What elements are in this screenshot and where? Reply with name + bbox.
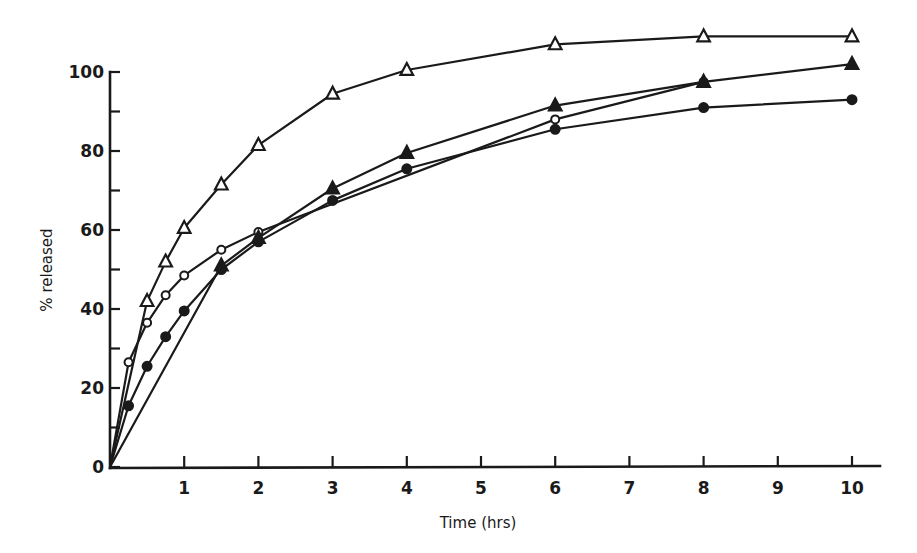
open-triangle-marker [141, 294, 154, 306]
y-tick-label: 40 [80, 299, 104, 319]
x-tick-label: 5 [475, 478, 487, 498]
open-triangle-marker [159, 255, 172, 267]
x-tick-label: 3 [327, 478, 339, 498]
x-axis [110, 466, 880, 468]
series-line [110, 100, 852, 467]
x-ticks: 12345678910 [178, 456, 864, 498]
filled-circle-marker [124, 401, 133, 410]
y-tick-label: 0 [92, 457, 104, 477]
open-triangle-marker [252, 138, 265, 150]
filled-circle-marker [217, 265, 226, 274]
filled-circle-marker [180, 306, 189, 315]
series-open-circle [110, 78, 708, 467]
open-circle-marker [125, 358, 133, 366]
filled-circle-marker [328, 196, 337, 205]
y-tick-label: 80 [80, 141, 104, 161]
series-line [110, 82, 704, 467]
x-tick-label: 2 [252, 478, 264, 498]
filled-circle-marker [161, 332, 170, 341]
x-tick-label: 8 [698, 478, 710, 498]
filled-circle-marker [551, 125, 560, 134]
x-tick-label: 4 [401, 478, 413, 498]
y-axis-title: % released [38, 228, 56, 311]
series-filled-triangle [110, 57, 858, 467]
series-filled-circle [110, 95, 857, 467]
y-tick-label: 60 [80, 220, 104, 240]
filled-circle-marker [402, 164, 411, 173]
filled-circle-marker [254, 237, 263, 246]
y-tick-label: 20 [80, 378, 104, 398]
filled-circle-marker [848, 95, 857, 104]
x-tick-label: 1 [178, 478, 190, 498]
open-circle-marker [551, 115, 559, 123]
filled-triangle-marker [846, 57, 859, 69]
axes: 020406080100 12345678910 [69, 62, 881, 498]
open-circle-marker [180, 271, 188, 279]
release-profile-chart: 020406080100 12345678910 Time (hrs) % re… [0, 0, 917, 553]
open-circle-marker [143, 319, 151, 327]
y-tick-label: 100 [69, 62, 105, 82]
filled-circle-marker [143, 362, 152, 371]
y-ticks: 020406080100 [69, 62, 121, 477]
x-tick-label: 6 [549, 478, 561, 498]
data-series [110, 29, 858, 467]
x-axis-title: Time (hrs) [439, 514, 517, 532]
open-circle-marker [217, 246, 225, 254]
open-circle-marker [162, 291, 170, 299]
x-tick-label: 7 [623, 478, 635, 498]
filled-circle-marker [699, 103, 708, 112]
x-tick-label: 9 [772, 478, 784, 498]
x-tick-label: 10 [840, 478, 864, 498]
